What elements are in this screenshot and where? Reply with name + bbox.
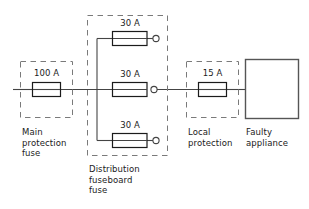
rating-distribution-fuse-middle: 30 A xyxy=(105,69,155,79)
rating-distribution-fuse-bottom: 30 A xyxy=(105,120,155,130)
label-distribution-fuseboard-fuse: Distribution fuseboard fuse xyxy=(89,164,140,196)
terminal-open-circle-top xyxy=(153,35,159,41)
label-local-protection: Local protection xyxy=(188,127,232,148)
rating-main-fuse: 100 A xyxy=(20,68,73,78)
circuit-schematic-svg xyxy=(0,0,309,209)
rating-distribution-fuse-top: 30 A xyxy=(105,18,155,28)
label-faulty-appliance: Faulty appliance xyxy=(246,127,288,148)
terminal-open-circle-bottom xyxy=(153,137,159,143)
label-main-protection-fuse: Main protection fuse xyxy=(22,127,66,159)
terminal-open-circle-middle xyxy=(151,86,157,92)
faulty-appliance-box xyxy=(246,60,299,119)
fuse-circuit-diagram: 100 A 30 A 30 A 30 A 15 A Main protectio… xyxy=(0,0,309,209)
rating-local-fuse: 15 A xyxy=(186,68,239,78)
